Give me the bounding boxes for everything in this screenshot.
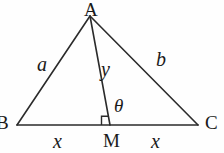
vertex-label-m: M xyxy=(103,131,120,150)
segment-ab xyxy=(17,16,90,125)
vertex-label-a: A xyxy=(84,0,98,19)
vertex-label-c: C xyxy=(205,113,218,132)
median-label-y: y xyxy=(101,59,110,79)
side-label-a: a xyxy=(37,54,47,74)
base-label-x-right: x xyxy=(151,131,160,151)
side-label-b: b xyxy=(156,49,166,69)
angle-label-theta: θ xyxy=(114,96,123,115)
right-angle-marker-icon xyxy=(102,116,109,125)
base-label-x-left: x xyxy=(53,131,62,151)
vertex-label-b: B xyxy=(0,113,9,132)
geometry-figure: A B C M a b y x x θ xyxy=(0,0,224,153)
